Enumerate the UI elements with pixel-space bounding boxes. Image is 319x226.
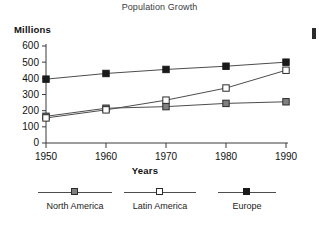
x-tick-label: 1960 [95, 151, 118, 162]
data-point-marker [43, 115, 49, 121]
data-point-marker [163, 97, 169, 103]
x-tick-label: 1950 [35, 151, 58, 162]
legend-marker-icon [156, 188, 163, 195]
data-point-marker [103, 107, 109, 113]
legend-item[interactable]: North America [38, 186, 112, 211]
legend-key [124, 186, 196, 200]
y-axis-ticks [42, 46, 46, 143]
data-point-marker [283, 99, 289, 105]
data-series [43, 59, 289, 82]
x-tick-label: 1970 [155, 151, 178, 162]
y-tick-label: 500 [22, 57, 39, 68]
data-point-marker [223, 63, 229, 69]
legend-label: Latin America [124, 201, 196, 211]
legend-key [38, 186, 112, 200]
y-tick-label: 200 [22, 105, 39, 116]
data-point-marker [103, 70, 109, 76]
data-point-marker [223, 100, 229, 106]
y-tick-label: 100 [22, 121, 39, 132]
data-point-marker [163, 66, 169, 72]
edge-crop-artifact [312, 28, 316, 39]
legend-key [218, 186, 276, 200]
x-tick-label: 1990 [275, 151, 298, 162]
data-series-layer [43, 59, 289, 121]
data-point-marker [43, 76, 49, 82]
legend-item[interactable]: Europe [218, 186, 276, 211]
y-axis-tick-labels: 0100200300400500600 [22, 40, 39, 148]
legend-item[interactable]: Latin America [124, 186, 196, 211]
legend-marker-icon [71, 188, 78, 195]
data-point-marker [223, 85, 229, 91]
x-axis-tick-labels: 19501960197019801990 [35, 151, 298, 162]
chart-figure: Population Growth Millions 0100200300400… [0, 0, 319, 226]
legend-label: Europe [218, 201, 276, 211]
y-tick-label: 300 [22, 89, 39, 100]
data-point-marker [163, 103, 169, 109]
data-point-marker [283, 59, 289, 65]
x-tick-label: 1980 [215, 151, 238, 162]
legend-label: North America [38, 201, 112, 211]
data-series [43, 67, 289, 121]
y-tick-label: 0 [33, 137, 39, 148]
y-tick-label: 400 [22, 73, 39, 84]
data-point-marker [283, 67, 289, 73]
x-axis-ticks [46, 143, 286, 148]
legend-marker-icon [243, 188, 250, 195]
chart-legend: North AmericaLatin AmericaEurope [38, 186, 288, 222]
x-axis-title: Years [0, 165, 290, 176]
y-tick-label: 600 [22, 40, 39, 51]
